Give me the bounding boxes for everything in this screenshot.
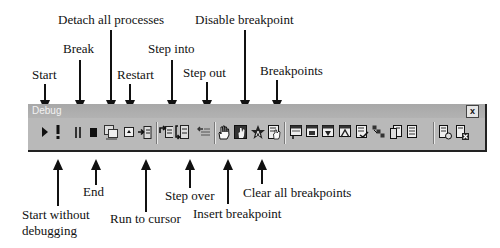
insert-breakpoint-button[interactable]	[217, 124, 231, 140]
clear-window-button[interactable]	[455, 124, 469, 140]
separator	[214, 122, 216, 144]
separator	[433, 122, 435, 144]
break-button[interactable]	[71, 124, 85, 140]
immediate-window-button[interactable]	[355, 124, 369, 140]
clear-icon	[456, 125, 469, 140]
label-disable-breakpoint: Disable breakpoint	[195, 13, 294, 27]
watch2-window-button[interactable]	[305, 124, 319, 140]
arrow-line-start-without-debugging	[57, 166, 59, 206]
arrow-line-detach	[110, 30, 112, 106]
clear-all-breakpoints-button[interactable]	[251, 124, 265, 140]
run-to-cursor-icon	[138, 126, 152, 139]
disassembly-icon	[439, 125, 452, 140]
arrow-line-disable-bp	[244, 30, 246, 106]
memory-window-button[interactable]	[389, 124, 403, 140]
arrow-line-clear-all-breakpoints	[261, 166, 263, 184]
label-insert-breakpoint: Insert breakpoint	[193, 207, 281, 221]
arrow-line-end	[95, 166, 97, 185]
watch-window-icon	[306, 125, 319, 139]
start-without-debugging-button[interactable]	[51, 124, 65, 140]
end-button[interactable]	[87, 124, 101, 140]
registers-window-icon	[407, 125, 418, 139]
watch-window-icon	[290, 125, 303, 139]
toolbar-titlebar[interactable]: Debug x	[28, 104, 485, 118]
clear-breakpoints-icon	[251, 125, 265, 140]
label-breakpoints: Breakpoints	[260, 64, 323, 78]
label-break: Break	[63, 42, 94, 56]
watch1-window-button[interactable]	[289, 124, 303, 140]
run-to-cursor-button[interactable]	[138, 124, 152, 140]
label-start: Start	[32, 68, 57, 82]
breakpoints-window-icon	[268, 125, 282, 140]
exclamation-icon	[55, 125, 61, 139]
label-step-into: Step into	[148, 42, 195, 56]
start-button[interactable]	[38, 124, 52, 140]
label-start-without-debugging-1: Start without	[22, 208, 90, 222]
registers-window-button[interactable]	[405, 124, 419, 140]
call-stack-icon	[372, 125, 386, 139]
toolbar-title: Debug	[32, 105, 61, 116]
separator	[156, 122, 158, 144]
label-run-to-cursor: Run to cursor	[110, 212, 181, 226]
detach-all-processes-button[interactable]	[104, 124, 118, 140]
locals-window-icon	[322, 125, 335, 139]
label-step-out: Step out	[183, 66, 226, 80]
arrow-line-insert-breakpoint	[227, 166, 229, 204]
memory-window-icon	[390, 125, 403, 139]
step-over-button[interactable]	[175, 124, 189, 140]
disassembly-window-button[interactable]	[438, 124, 452, 140]
step-into-icon	[159, 125, 173, 139]
disable-breakpoint-button[interactable]	[234, 124, 248, 140]
play-icon	[41, 127, 49, 137]
autos-window-icon	[339, 125, 352, 139]
label-step-over: Step over	[165, 189, 214, 203]
step-out-icon	[197, 126, 211, 138]
hand-icon	[217, 125, 231, 140]
restart-icon	[124, 127, 134, 137]
arrow-line-run-to-cursor	[145, 166, 147, 212]
label-restart: Restart	[117, 68, 154, 82]
label-detach-all-processes: Detach all processes	[58, 13, 164, 27]
label-clear-all-breakpoints: Clear all breakpoints	[243, 186, 351, 200]
toolbar-icon-row	[28, 118, 485, 148]
immediate-window-icon	[356, 125, 369, 139]
step-over-icon	[175, 125, 189, 140]
pause-icon	[74, 127, 82, 138]
close-button[interactable]: x	[466, 105, 479, 118]
locals-window-button[interactable]	[321, 124, 335, 140]
detach-icon	[104, 125, 118, 140]
disable-breakpoint-icon	[234, 125, 248, 140]
autos-window-button[interactable]	[338, 124, 352, 140]
stop-icon	[90, 128, 98, 137]
breakpoints-button[interactable]	[268, 124, 282, 140]
separator	[284, 122, 286, 144]
step-into-button[interactable]	[159, 124, 173, 140]
step-out-button[interactable]	[197, 124, 211, 140]
debug-toolbar: Debug x	[28, 104, 487, 152]
restart-button[interactable]	[122, 124, 136, 140]
label-end: End	[83, 185, 104, 199]
arrow-line-step-over	[189, 166, 191, 188]
call-stack-window-button[interactable]	[372, 124, 386, 140]
label-start-without-debugging-2: debugging	[22, 224, 77, 238]
